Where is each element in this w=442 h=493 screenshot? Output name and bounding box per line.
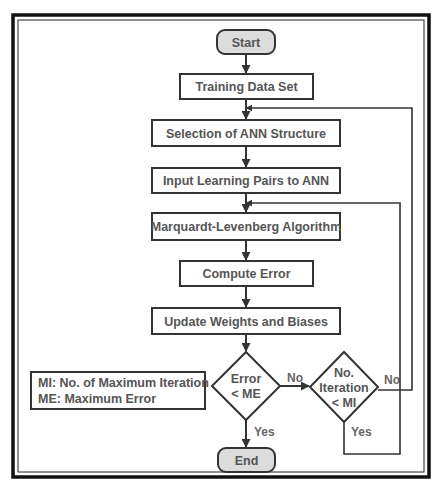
ml-algorithm-node: Marquardt-Levenberg Algorithm — [151, 213, 342, 240]
selection-label: Selection of ANN Structure — [166, 127, 326, 141]
training-data-node: Training Data Set — [180, 74, 313, 99]
ml-algorithm-label: Marquardt-Levenberg Algorithm — [151, 220, 342, 234]
compute-error-label: Compute Error — [202, 267, 290, 281]
iter-no-label: No — [384, 373, 400, 387]
decision-iter-line1: No. — [334, 366, 354, 380]
start-label: Start — [232, 36, 261, 50]
end-node: End — [218, 448, 275, 472]
update-weights-label: Update Weights and Biases — [164, 315, 328, 329]
legend-line-me: ME: Maximum Error — [38, 392, 156, 406]
end-label: End — [235, 454, 259, 468]
training-data-label: Training Data Set — [195, 80, 298, 94]
legend-box: MI: No. of Maximum Iteration ME: Maximum… — [31, 372, 209, 409]
compute-error-node: Compute Error — [180, 261, 313, 286]
decision-error-node: Error < ME — [212, 352, 280, 420]
decision-iter-line3: < MI — [332, 396, 357, 410]
selection-node: Selection of ANN Structure — [152, 120, 340, 146]
decision-iter-line2: Iteration — [319, 381, 368, 395]
error-no-label: No — [287, 371, 303, 385]
start-node: Start — [217, 30, 275, 54]
flowchart-canvas: Start Training Data Set Selection of ANN… — [0, 0, 442, 493]
input-pairs-label: Input Learning Pairs to ANN — [163, 174, 329, 188]
input-pairs-node: Input Learning Pairs to ANN — [152, 168, 340, 193]
decision-error-line2: < ME — [231, 387, 261, 401]
arrow-iter-no-loop — [246, 108, 412, 390]
iter-yes-label: Yes — [351, 425, 372, 439]
decision-error-line1: Error — [231, 372, 262, 386]
error-yes-label: Yes — [254, 425, 275, 439]
update-weights-node: Update Weights and Biases — [152, 308, 340, 334]
decision-iteration-node: No. Iteration < MI — [310, 352, 378, 422]
legend-line-mi: MI: No. of Maximum Iteration — [38, 376, 209, 390]
